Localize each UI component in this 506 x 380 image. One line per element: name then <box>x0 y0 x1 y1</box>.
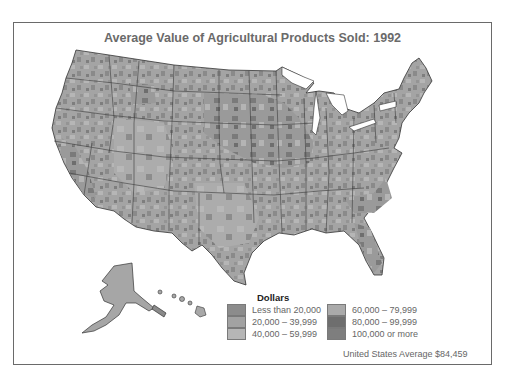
legend-item: 20,000 – 39,999 <box>227 316 321 328</box>
legend-swatch-60000-79999 <box>327 304 346 316</box>
alaska-inset <box>82 263 166 333</box>
legend-item: 60,000 – 79,999 <box>327 304 418 316</box>
legend-swatch-under-20000 <box>227 304 246 316</box>
legend-label: 40,000 – 59,999 <box>252 329 317 339</box>
legend-swatch-80000-99999 <box>327 316 346 328</box>
legend-swatch-100000-plus <box>327 328 346 340</box>
legend-label: 20,000 – 39,999 <box>252 317 317 327</box>
legend-swatch-40000-59999 <box>227 328 246 340</box>
legend-column-2: 60,000 – 79,999 80,000 – 99,999 100,000 … <box>327 304 418 340</box>
legend-item: 100,000 or more <box>327 328 418 340</box>
us-average-note: United States Average $84,459 <box>343 349 467 359</box>
cropped-previous-text <box>0 0 506 6</box>
map-figure: Average Value of Agricultural Products S… <box>13 22 492 365</box>
legend-label: Less than 20,000 <box>252 305 321 315</box>
legend-column-1: Less than 20,000 20,000 – 39,999 40,000 … <box>227 304 321 340</box>
map-title: Average Value of Agricultural Products S… <box>14 31 491 45</box>
legend-item: 40,000 – 59,999 <box>227 328 321 340</box>
legend-swatch-20000-39999 <box>227 316 246 328</box>
legend-title: Dollars <box>257 292 289 303</box>
legend-item: Less than 20,000 <box>227 304 321 316</box>
legend-label: 80,000 – 99,999 <box>352 317 417 327</box>
legend-label: 100,000 or more <box>352 329 418 339</box>
legend-label: 60,000 – 79,999 <box>352 305 417 315</box>
legend-item: 80,000 – 99,999 <box>327 316 418 328</box>
